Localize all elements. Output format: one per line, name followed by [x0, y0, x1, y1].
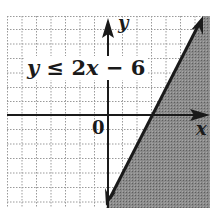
origin-label: 0 — [92, 117, 105, 138]
y-axis-label: y — [118, 12, 128, 33]
coordinate-graph — [0, 0, 217, 208]
x-axis-label: x — [196, 118, 207, 139]
inequality-label: y ≤ 2x − 6 — [24, 56, 148, 80]
